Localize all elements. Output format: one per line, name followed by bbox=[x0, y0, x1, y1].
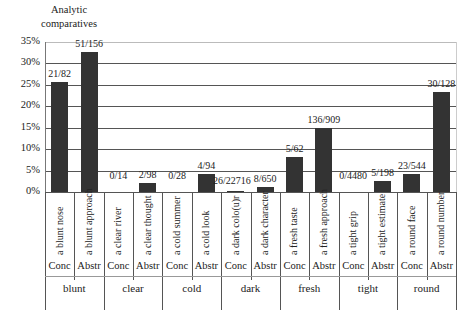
type-label: Conc bbox=[397, 260, 426, 271]
group-label: fresh bbox=[280, 282, 339, 294]
group-label: dark bbox=[221, 282, 280, 294]
bar-data-label: 21/82 bbox=[35, 68, 84, 79]
group-label: round bbox=[397, 282, 456, 294]
group-label: clear bbox=[104, 282, 163, 294]
category-divider bbox=[456, 192, 457, 310]
gridline bbox=[45, 85, 456, 86]
bar-data-label: 136/909 bbox=[299, 114, 348, 125]
bar-data-label: 0/28 bbox=[152, 170, 201, 181]
category-label: a clear thought bbox=[133, 195, 162, 255]
bar-data-label: 23/544 bbox=[387, 160, 436, 171]
category-label: a round number bbox=[427, 195, 456, 255]
y-tick-label: 35% bbox=[0, 35, 40, 46]
category-label: a round face bbox=[397, 195, 426, 255]
y-tick-label: 15% bbox=[0, 121, 40, 132]
type-label: Abstr bbox=[309, 260, 338, 271]
gridline bbox=[45, 149, 456, 150]
category-label: a cold look bbox=[192, 195, 221, 255]
category-label: a fresh approach bbox=[309, 195, 338, 255]
category-label: a clear river bbox=[104, 195, 133, 255]
bar bbox=[227, 191, 244, 193]
group-label: cold bbox=[162, 282, 221, 294]
plot-right-edge bbox=[456, 42, 457, 192]
type-label: Abstr bbox=[368, 260, 397, 271]
plot-area: 21/8251/1560/142/980/284/9426/227168/650… bbox=[45, 42, 456, 192]
bar bbox=[433, 92, 450, 192]
y-tick-label: 10% bbox=[0, 142, 40, 153]
bar bbox=[315, 128, 332, 192]
y-tick-label: 20% bbox=[0, 99, 40, 110]
type-label: Abstr bbox=[251, 260, 280, 271]
y-axis-line bbox=[45, 42, 46, 192]
type-label: Abstr bbox=[133, 260, 162, 271]
bar bbox=[139, 183, 156, 192]
type-label: Conc bbox=[45, 260, 74, 271]
category-label: a dark colo(u)r bbox=[221, 195, 250, 255]
group-separator bbox=[45, 276, 456, 277]
type-label: Conc bbox=[162, 260, 191, 271]
type-label: Abstr bbox=[74, 260, 103, 271]
type-label: Abstr bbox=[192, 260, 221, 271]
gridline bbox=[45, 63, 456, 64]
y-tick-label: 25% bbox=[0, 78, 40, 89]
y-tick-label: 5% bbox=[0, 164, 40, 175]
category-label: a blunt approach bbox=[74, 195, 103, 255]
bar bbox=[286, 157, 303, 192]
type-label: Conc bbox=[104, 260, 133, 271]
category-label: a dark character bbox=[251, 195, 280, 255]
bar bbox=[51, 82, 68, 192]
gridline bbox=[45, 106, 456, 107]
bar-data-label: 4/94 bbox=[182, 160, 231, 171]
type-label: Conc bbox=[339, 260, 368, 271]
type-label: Conc bbox=[221, 260, 250, 271]
y-tick-label: 30% bbox=[0, 56, 40, 67]
y-axis-title: Analytic comparatives bbox=[24, 3, 114, 31]
gridline bbox=[45, 128, 456, 129]
bar-data-label: 5/62 bbox=[270, 143, 319, 154]
bar-data-label: 51/156 bbox=[64, 38, 113, 49]
type-label: Conc bbox=[280, 260, 309, 271]
category-label: a tight estimate bbox=[368, 195, 397, 255]
bar-data-label: 8/650 bbox=[241, 173, 290, 184]
category-label: a blunt nose bbox=[45, 195, 74, 255]
bar bbox=[374, 181, 391, 192]
category-label: a cold summer bbox=[162, 195, 191, 255]
bar bbox=[403, 174, 420, 192]
category-label: a fresh taste bbox=[280, 195, 309, 255]
category-label: a tight grip bbox=[339, 195, 368, 255]
group-label: blunt bbox=[45, 282, 104, 294]
group-label: tight bbox=[339, 282, 398, 294]
type-label: Abstr bbox=[427, 260, 456, 271]
y-tick-label: 0% bbox=[0, 185, 40, 196]
bar-data-label: 30/128 bbox=[417, 78, 466, 89]
